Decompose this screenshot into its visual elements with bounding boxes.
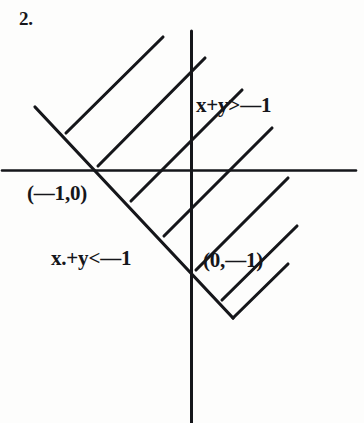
boundary-line-x-plus-y-equals-minus-1: [35, 107, 233, 318]
point-label-y-intercept: (0,—1): [203, 248, 263, 273]
hatch-stroke: [164, 128, 272, 236]
figure-page: 2. x+y>—1 (—1,0) x.+y<—1 (0,—1): [0, 0, 364, 423]
region-label-greater-than: x+y>—1: [196, 93, 271, 118]
hatch-stroke: [66, 37, 163, 133]
problem-number-label: 2.: [19, 8, 33, 30]
coordinate-plane-diagram: [0, 0, 364, 423]
point-label-x-intercept: (—1,0): [27, 181, 87, 206]
region-label-less-than: x.+y<—1: [51, 246, 131, 271]
hatch-stroke: [98, 58, 205, 166]
